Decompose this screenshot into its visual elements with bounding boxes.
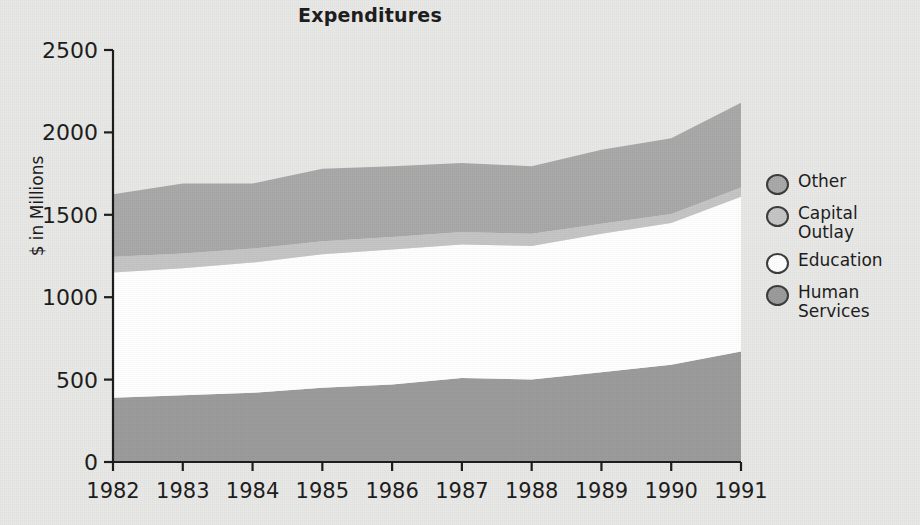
chart-figure: Expenditures $ in Millions 0500100015002… <box>0 0 920 525</box>
legend-item[interactable]: Capital Outlay <box>766 204 916 242</box>
y-tick-label: 2500 <box>42 38 98 63</box>
x-tick-label: 1985 <box>296 479 349 503</box>
chart-legend: OtherCapital OutlayEducationHuman Servic… <box>766 172 916 330</box>
x-tick-label: 1986 <box>365 479 418 503</box>
x-tick-label: 1990 <box>644 479 697 503</box>
y-tick-label: 1000 <box>42 285 98 310</box>
x-tick-label: 1984 <box>226 479 279 503</box>
x-tick-label: 1991 <box>714 479 767 503</box>
x-tick-label: 1989 <box>575 479 628 503</box>
y-tick-label: 1500 <box>42 203 98 228</box>
x-axis-ticks: 1982198319841985198619871988198919901991 <box>86 462 767 503</box>
x-tick-label: 1983 <box>156 479 209 503</box>
legend-item[interactable]: Other <box>766 172 916 195</box>
legend-swatch-icon <box>766 253 789 274</box>
y-tick-label: 2000 <box>42 120 98 145</box>
legend-item-label: Education <box>798 251 883 270</box>
legend-swatch-icon <box>766 206 789 227</box>
y-axis-ticks: 05001000150020002500 <box>42 38 113 475</box>
legend-item[interactable]: Human Services <box>766 283 916 321</box>
x-tick-label: 1987 <box>435 479 488 503</box>
legend-swatch-icon <box>766 285 789 306</box>
legend-item-label: Human Services <box>798 283 870 321</box>
x-tick-label: 1988 <box>505 479 558 503</box>
legend-item[interactable]: Education <box>766 251 916 274</box>
x-tick-label: 1982 <box>86 479 139 503</box>
stacked-area-series <box>113 103 741 462</box>
y-tick-label: 500 <box>56 368 98 393</box>
legend-item-label: Capital Outlay <box>798 204 858 242</box>
legend-item-label: Other <box>798 172 846 191</box>
y-tick-label: 0 <box>84 450 98 475</box>
legend-swatch-icon <box>766 174 789 195</box>
